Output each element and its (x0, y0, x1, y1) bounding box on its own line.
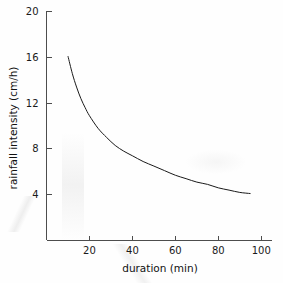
plot-area: 48121620 20406080100 duration (min) rain… (0, 0, 283, 283)
y-tick-label: 20 (26, 6, 39, 17)
y-tick-label: 8 (32, 143, 38, 154)
y-tick-label: 16 (26, 52, 39, 63)
x-tick-label: 60 (169, 245, 182, 256)
y-axis-ticks (47, 12, 52, 195)
rainfall-intensity-curve (68, 56, 251, 193)
x-axis-ticks (89, 236, 261, 241)
x-axis-tick-labels: 20406080100 (83, 245, 271, 256)
y-axis-tick-labels: 48121620 (26, 6, 39, 200)
x-tick-label: 20 (83, 245, 96, 256)
y-tick-label: 12 (26, 98, 39, 109)
x-tick-label: 100 (252, 245, 271, 256)
chart-figure: 48121620 20406080100 duration (min) rain… (0, 0, 283, 283)
x-tick-label: 80 (212, 245, 225, 256)
x-axis-title: duration (min) (122, 262, 198, 274)
x-tick-label: 40 (126, 245, 139, 256)
y-tick-label: 4 (32, 189, 38, 200)
y-axis-title: rainfall intensity (cm/h) (7, 67, 19, 190)
